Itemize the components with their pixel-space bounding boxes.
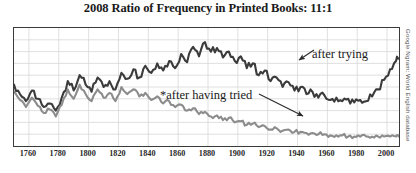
x-tick-label: 1860: [169, 149, 185, 158]
x-tick-label: 1840: [139, 149, 155, 158]
x-tick-label: 1800: [79, 149, 95, 158]
annotation-leader-lines: [259, 50, 314, 116]
x-tick-label: 1940: [288, 149, 304, 158]
x-tick-label: 1900: [229, 149, 245, 158]
chart-container: 2008 Ratio of Frequency in Printed Books…: [0, 0, 416, 173]
x-axis-tick-labels: 1760178018001820184018601880190019201940…: [13, 149, 400, 163]
annotation-after-having-tried: *after having tried: [160, 88, 252, 103]
x-tick-label: 1980: [348, 149, 364, 158]
x-tick-label: 1880: [199, 149, 215, 158]
leader-line-after-having-tried: [259, 94, 303, 116]
source-credit-text: Google Ngram: World English database: [405, 29, 412, 41]
plot-svg: [14, 28, 399, 146]
annotation-after-trying: after trying: [312, 47, 368, 62]
chart-title: 2008 Ratio of Frequency in Printed Books…: [0, 1, 416, 16]
x-tick-label: 1760: [20, 149, 36, 158]
x-tick-label: 1820: [109, 149, 125, 158]
x-tick-label: 2000: [378, 149, 394, 158]
x-tick-label: 1920: [258, 149, 274, 158]
x-tick-label: 1960: [318, 149, 334, 158]
plot-area: [13, 27, 400, 147]
x-tick-label: 1780: [50, 149, 66, 158]
source-credit: Google Ngram: World English database: [403, 27, 415, 147]
